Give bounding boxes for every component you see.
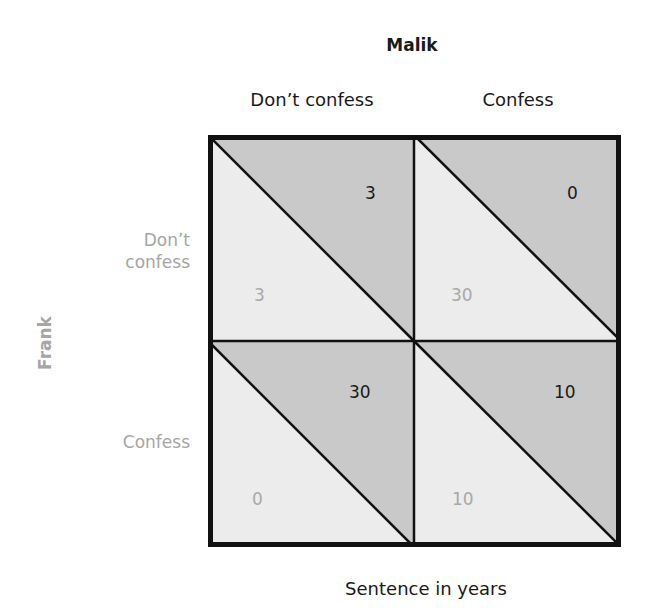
row-header-confess: Confess [80, 431, 190, 453]
row-header-line2: confess [80, 251, 190, 273]
column-header-confess: Confess [418, 89, 618, 110]
row-header-line1: Confess [80, 431, 190, 453]
payoff-frank-1-1: 10 [452, 489, 474, 509]
row-header-dont-confess: Don’t confess [80, 229, 190, 273]
payoff-frank-0-1: 30 [451, 285, 473, 305]
row-player-label: Frank [35, 316, 55, 370]
payoff-malik-0-0: 3 [365, 183, 376, 203]
payoff-malik-1-0: 30 [349, 382, 371, 402]
column-header-dont-confess: Don’t confess [212, 89, 412, 110]
payoff-malik-1-1: 10 [554, 382, 576, 402]
payoff-frank-0-0: 3 [254, 285, 265, 305]
row-header-line1: Don’t [80, 229, 190, 251]
units-caption: Sentence in years [296, 578, 556, 599]
cell-dont-dont [208, 135, 414, 341]
payoff-matrix [208, 135, 621, 547]
cell-confess-dont [208, 341, 414, 547]
column-player-label: Malik [352, 35, 472, 55]
payoff-malik-0-1: 0 [567, 183, 578, 203]
cell-dont-confess [414, 135, 621, 341]
payoff-frank-1-0: 0 [252, 489, 263, 509]
cell-confess-confess [414, 341, 621, 547]
